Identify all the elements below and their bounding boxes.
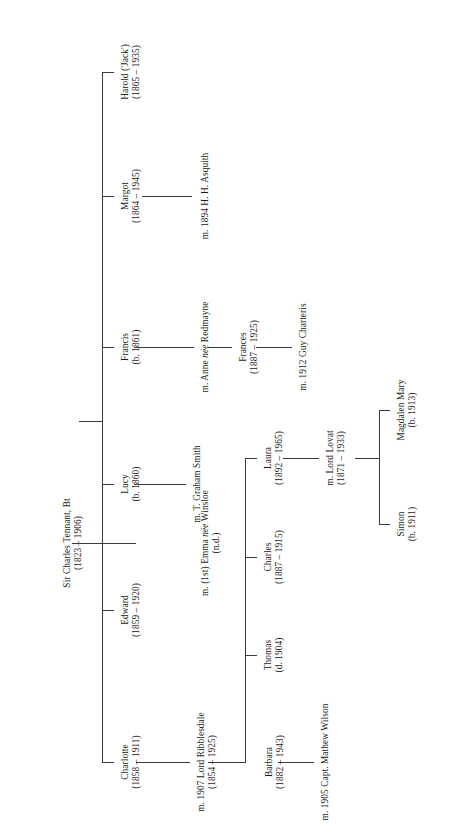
connector-tick-thomas [245,655,257,656]
node-francis: Francis (b. 1861) [120,330,142,365]
node-name: Margot [120,169,131,223]
node-name: Simon [396,507,407,542]
connector-tick-edward [102,610,114,611]
node-thomas: Thomas (d. 1904) [263,638,285,673]
node-dates: (n.d.) [211,490,222,596]
node-name: Sir Charles Tennant, Bt [62,498,73,587]
node-dates: (1858 – 1911) [131,735,142,789]
node-dates: (1859 – 1920) [131,583,142,637]
node-edward: Edward (1859 – 1920) [120,583,142,637]
node-name: m. T. Graham Smith [192,445,203,523]
node-dates: (1823 – 1906) [73,498,84,587]
connector-tick-harold [102,72,114,73]
connector-tick-margot [102,196,114,197]
node-laura: Laura (1892 – 1965) [263,431,285,485]
node-anne-redmayne: m. Anne née Redmayne [200,302,211,393]
connector-frances-marriage [256,347,292,348]
node-dates: (b. 1861) [131,330,142,365]
node-dates: (1887 – 1925) [249,320,260,374]
node-dates: (1871 – 1933) [336,430,347,485]
connector-francis-to-frances [208,347,232,348]
node-name: m. Lord Lovat [325,430,336,485]
node-name: Frances [238,320,249,374]
node-name: m. 1894 H. H. Asquith [200,153,211,240]
connector-laura-marriage [283,458,319,459]
connector-tick-charles [245,557,257,558]
connector-tick-simon [379,524,390,525]
node-name: m. 1905 Capt. Mathew Wilson [320,704,331,821]
node-lord-lovat: m. Lord Lovat (1871 – 1933) [325,430,347,485]
connector-tick-magdalen [379,410,390,411]
node-dates: (1882 – 1943) [275,735,286,789]
connector-tick-francis [102,347,114,348]
node-guy-charteris: m. 1912 Guy Charteris [298,303,309,390]
connector-children-spine [102,72,103,762]
family-tree-diagram: Sir Charles Tennant, Bt (1823 – 1906) m.… [0,0,450,839]
node-dates: (1865 – 1935) [131,44,142,100]
node-name: Francis [120,330,131,365]
node-name: m. Anne née Redmayne [200,302,211,393]
node-emma-winsloe: m. (1st) Emma née Winsloe (n.d.) [200,490,222,596]
node-dates: (b. 1911) [407,507,418,542]
node-name: Charles [263,530,274,584]
node-name: Charlotte [120,735,131,789]
node-dates: (1864 – 1945) [131,169,142,223]
node-barbara: Barbara (1882 – 1943) [264,735,286,789]
connector-margot-marriage [142,196,192,197]
node-sir-charles-tennant: Sir Charles Tennant, Bt (1823 – 1906) [62,498,84,587]
node-harold-jack: Harold ('Jack') (1865 – 1935) [120,44,142,100]
node-dates: (b. 1913) [407,380,418,441]
node-dates: (1887 – 1915) [274,530,285,584]
connector-francis-marriage [134,347,194,348]
node-charles: Charles (1887 – 1915) [263,530,285,584]
node-dates: (d. 1904) [274,638,285,673]
node-margot: Margot (1864 – 1945) [120,169,142,223]
node-name: Magdalen Mary [396,380,407,441]
connector-tick-laura [245,458,257,459]
node-name: m. 1907 Lord Ribblesdale [196,712,207,812]
connector-tick-lucy [102,484,114,485]
connector-charlotte-marriage [136,762,190,763]
node-t-graham-smith: m. T. Graham Smith [192,445,203,523]
connector-laura-children-spine [379,410,380,524]
node-dates: (b. 1860) [131,467,142,502]
node-magdalen-mary: Magdalen Mary (b. 1913) [396,380,418,441]
node-lucy: Lucy (b. 1860) [120,467,142,502]
node-simon: Simon (b. 1911) [396,507,418,542]
node-hh-asquith: m. 1894 H. H. Asquith [200,153,211,240]
node-dates: (1892 – 1965) [274,431,285,485]
node-name: Harold ('Jack') [120,44,131,100]
node-capt-mathew-wilson: m. 1905 Capt. Mathew Wilson [320,704,331,821]
node-frances: Frances (1887 – 1925) [238,320,260,374]
connector-laura-children-stem [355,458,379,459]
connector-barbara-children-spine [245,458,246,763]
node-lord-ribblesdale: m. 1907 Lord Ribblesdale (1854 – 1925) [196,712,218,812]
node-name: Edward [120,583,131,637]
node-name: Thomas [263,638,274,673]
node-charlotte: Charlotte (1858 – 1911) [120,735,142,789]
node-name: Laura [263,431,274,485]
connector-root-stem [79,421,102,422]
node-name: m. 1912 Guy Charteris [298,303,309,390]
node-dates: (1854 – 1925) [207,712,218,812]
node-name: Lucy [120,467,131,502]
node-name: Barbara [264,735,275,789]
connector-tick-charlotte [102,762,114,763]
